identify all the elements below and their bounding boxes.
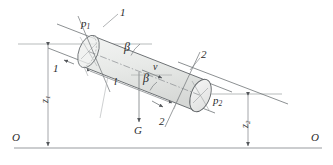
label-weight-G: G [134,125,142,136]
length-tick-left [100,76,108,118]
label-elevation-z1: z1 [40,96,51,103]
section-leader-1-top [103,14,118,27]
label-pressure-p1: p1 [81,18,90,30]
label-datum-left: O [12,132,20,143]
label-section-1-top: 1 [120,7,126,18]
label-velocity-v: v [153,62,157,72]
figure-root: p1 p2 1 1 2 2 β β v G l z1 z2 O O [0,0,333,165]
label-pressure-p2: p2 [213,95,222,107]
label-elevation-z2: z2 [240,121,251,128]
label-section-1-left: 1 [53,63,59,74]
label-section-2-bottom: 2 [159,116,165,127]
label-section-2-right: 2 [201,49,207,60]
section-arrow-2-bottom [152,101,163,107]
label-angle-beta-upper: β [124,41,130,53]
diagram-canvas [0,0,333,165]
label-datum-right: O [311,132,319,143]
label-length-l: l [114,76,117,87]
label-angle-beta-lower: β [143,72,149,84]
section-arrow-1-left [64,60,74,64]
